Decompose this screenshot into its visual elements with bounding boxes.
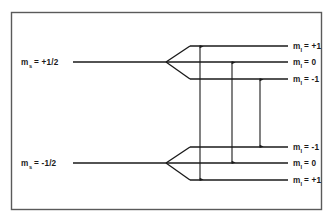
lower-sublevel-2-subscript: I <box>301 164 303 170</box>
lower-spin-label-subscript: s <box>29 164 32 170</box>
transition-arrows-group <box>200 47 260 180</box>
lower-sublevel-3-value: = +1 <box>304 176 321 185</box>
lower-sublevel-3-symbol: m <box>293 176 300 185</box>
lower-manifold-group <box>73 147 288 180</box>
lower-spin-label-value: = -1/2 <box>34 159 57 168</box>
upper-sublevel-label-1: m I = +1 <box>293 42 321 53</box>
upper-sublevel-label-2: m I = 0 <box>293 58 316 69</box>
upper-spin-label-subscript: s <box>29 63 32 69</box>
upper-sublevel-2-symbol: m <box>293 58 300 67</box>
upper-sublevel-2-subscript: I <box>301 63 303 69</box>
upper-sublevel-3-subscript: I <box>301 80 303 86</box>
upper-fan-line-bottom <box>166 62 190 79</box>
upper-fan-line-top <box>166 46 190 62</box>
lower-sublevel-2-value: = 0 <box>304 159 316 168</box>
lower-sublevel-3-subscript: I <box>301 181 303 187</box>
upper-sublevel-1-symbol: m <box>293 42 300 51</box>
upper-sublevel-1-subscript: I <box>301 47 303 53</box>
upper-spin-label: m s = +1/2 <box>21 58 59 69</box>
upper-manifold-group <box>73 46 288 79</box>
upper-spin-label-symbol: m <box>21 58 28 67</box>
lower-fan-line-bottom <box>166 163 190 180</box>
lower-fan-line-top <box>166 147 190 163</box>
energy-level-diagram-figure: m s = +1/2 m s = -1/2 m I = +1 m I = 0 m… <box>0 0 335 222</box>
lower-sublevel-1-symbol: m <box>293 143 300 152</box>
lower-sublevel-label-3: m I = +1 <box>293 176 321 187</box>
upper-sublevel-2-value: = 0 <box>304 58 316 67</box>
upper-sublevel-label-3: m I = -1 <box>293 75 319 86</box>
upper-sublevel-3-symbol: m <box>293 75 300 84</box>
upper-sublevel-3-value: = -1 <box>304 75 319 84</box>
lower-sublevel-1-subscript: I <box>301 148 303 154</box>
lower-sublevel-1-value: = -1 <box>304 143 319 152</box>
upper-sublevel-1-value: = +1 <box>304 42 321 51</box>
diagram-canvas: m s = +1/2 m s = -1/2 m I = +1 m I = 0 m… <box>0 0 335 222</box>
lower-sublevel-label-1: m I = -1 <box>293 143 319 154</box>
lower-spin-label-symbol: m <box>21 159 28 168</box>
lower-sublevel-2-symbol: m <box>293 159 300 168</box>
lower-spin-label: m s = -1/2 <box>21 159 57 170</box>
upper-spin-label-value: = +1/2 <box>34 58 59 67</box>
lower-sublevel-label-2: m I = 0 <box>293 159 316 170</box>
